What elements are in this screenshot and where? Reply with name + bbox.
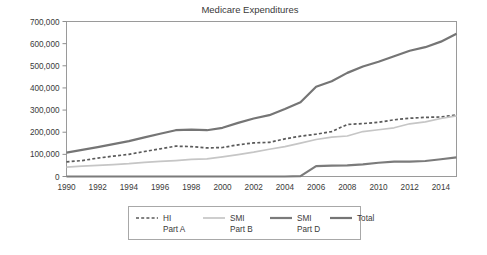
x-tick-label: 2012 bbox=[401, 183, 420, 192]
legend-label: SMI bbox=[230, 214, 245, 223]
y-tick-label: 400,000 bbox=[30, 84, 60, 93]
x-tick-label: 1998 bbox=[182, 183, 201, 192]
x-tick-label: 2006 bbox=[307, 183, 326, 192]
legend-label: HI bbox=[163, 214, 171, 223]
y-tick-label: 0 bbox=[55, 173, 60, 182]
x-tick-label: 2010 bbox=[369, 183, 388, 192]
y-tick-label: 700,000 bbox=[30, 18, 60, 27]
legend-label-sub: Part A bbox=[163, 225, 186, 234]
y-tick-label: 200,000 bbox=[30, 128, 60, 137]
x-tick-label: 1992 bbox=[89, 183, 108, 192]
chart-title: Medicare Expenditures bbox=[201, 4, 298, 15]
x-tick-label: 1994 bbox=[120, 183, 139, 192]
y-tick-label: 300,000 bbox=[30, 106, 60, 115]
x-tick-label: 2000 bbox=[213, 183, 232, 192]
x-tick-label: 1990 bbox=[57, 183, 76, 192]
x-tick-label: 2008 bbox=[338, 183, 357, 192]
legend-label-sub: Part D bbox=[297, 225, 320, 234]
y-tick-label: 500,000 bbox=[30, 62, 60, 71]
legend-label: Total bbox=[357, 214, 374, 223]
y-tick-label: 600,000 bbox=[30, 40, 60, 49]
legend-label: SMI bbox=[297, 214, 312, 223]
legend-label-sub: Part B bbox=[230, 225, 253, 234]
x-tick-label: 2002 bbox=[245, 183, 264, 192]
y-tick-label: 100,000 bbox=[30, 150, 60, 159]
x-tick-label: 2004 bbox=[276, 183, 295, 192]
medicare-expenditures-chart: Medicare Expenditures 0100,000200,000300… bbox=[0, 0, 487, 255]
x-tick-label: 1996 bbox=[151, 183, 170, 192]
x-tick-label: 2014 bbox=[432, 183, 451, 192]
